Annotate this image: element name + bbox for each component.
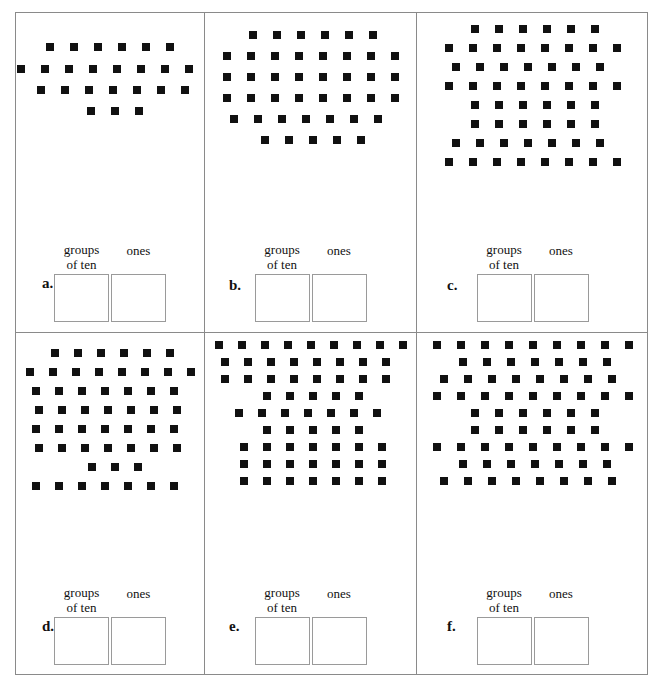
column-headers: groupsof tenones [417, 575, 648, 615]
dot-row [16, 65, 204, 73]
answer-boxes [205, 274, 416, 322]
dot-square [481, 443, 489, 451]
dot-square [378, 443, 386, 451]
tens-answer-box[interactable] [54, 274, 109, 322]
ones-label: ones [311, 586, 368, 615]
column-headers: groupsof tenones [417, 232, 648, 272]
dot-square [141, 368, 149, 376]
dot-square [567, 426, 575, 434]
dot-square [572, 63, 580, 71]
dot-square [281, 409, 289, 417]
dot-square [101, 425, 109, 433]
dot-square [512, 375, 520, 383]
dot-square [307, 341, 315, 349]
dot-square [565, 158, 573, 166]
dot-square [433, 443, 441, 451]
tens-answer-box[interactable] [54, 617, 109, 665]
tens-answer-box[interactable] [255, 617, 310, 665]
dot-square [247, 52, 255, 60]
dot-square [32, 425, 40, 433]
dot-square [471, 426, 479, 434]
dot-square [238, 341, 246, 349]
dot-square [464, 477, 472, 485]
dot-square [101, 387, 109, 395]
dot-square [173, 406, 181, 414]
dot-square [147, 425, 155, 433]
page-top-cropped-text [0, 0, 663, 10]
dot-row [417, 375, 648, 383]
dot-array [16, 333, 204, 501]
dot-square [170, 425, 178, 433]
dot-square [147, 387, 155, 395]
dot-square [55, 387, 63, 395]
dot-square [579, 460, 587, 468]
dot-square [85, 86, 93, 94]
dot-square [309, 443, 317, 451]
ones-label: ones [533, 586, 590, 615]
dot-square [382, 375, 390, 383]
ones-answer-box[interactable] [312, 274, 367, 322]
panel-d: d.groupsof tenones [16, 333, 205, 675]
dot-square [134, 463, 142, 471]
dot-square [560, 477, 568, 485]
ones-answer-box[interactable] [111, 617, 166, 665]
dot-square [517, 158, 525, 166]
dot-square [240, 460, 248, 468]
dot-square [271, 94, 279, 102]
dot-square [309, 392, 317, 400]
dot-row [417, 139, 648, 147]
answer-block: groupsof tenones [205, 575, 416, 675]
dot-square [541, 44, 549, 52]
dot-square [543, 25, 551, 33]
dot-row [16, 444, 204, 452]
dot-square [481, 392, 489, 400]
dot-square [104, 444, 112, 452]
groups-of-ten-label: groupsof ten [53, 585, 110, 615]
ones-answer-box[interactable] [534, 274, 589, 322]
dot-square [46, 43, 54, 51]
dot-square [332, 477, 340, 485]
ones-answer-box[interactable] [312, 617, 367, 665]
worksheet-grid: a.groupsof tenonesb.groupsof tenonesc.gr… [15, 12, 648, 675]
dot-square [613, 82, 621, 90]
dot-square [399, 341, 407, 349]
dot-square [313, 358, 321, 366]
dot-row [210, 477, 416, 485]
dot-square [524, 139, 532, 147]
dot-row [417, 44, 648, 52]
dot-row [417, 158, 648, 166]
dot-square [469, 44, 477, 52]
groups-of-ten-label-line2: of ten [254, 600, 311, 615]
dot-square [577, 443, 585, 451]
dot-square [150, 406, 158, 414]
dot-square [286, 426, 294, 434]
tens-answer-box[interactable] [477, 274, 532, 322]
ones-answer-box[interactable] [111, 274, 166, 322]
dot-row [422, 358, 648, 366]
dot-square [536, 375, 544, 383]
dot-square [519, 409, 527, 417]
tens-answer-box[interactable] [255, 274, 310, 322]
dot-square [254, 115, 262, 123]
dot-square [553, 341, 561, 349]
dot-square [81, 406, 89, 414]
groups-of-ten-label-line1: groups [254, 585, 311, 600]
dot-square [223, 52, 231, 60]
panel-c: c.groupsof tenones [417, 13, 648, 333]
ones-label: ones [110, 586, 167, 615]
groups-of-ten-label-line2: of ten [53, 600, 110, 615]
ones-answer-box[interactable] [534, 617, 589, 665]
dot-square [187, 368, 195, 376]
dot-square [373, 409, 381, 417]
dot-row [205, 115, 416, 123]
panel-a: a.groupsof tenones [16, 13, 205, 333]
groups-of-ten-label-line1: groups [53, 585, 110, 600]
dot-square [565, 44, 573, 52]
answer-block: groupsof tenones [205, 232, 416, 332]
dot-square [625, 392, 633, 400]
dot-row [205, 409, 416, 417]
groups-of-ten-label-line1: groups [53, 242, 110, 257]
dot-square [608, 477, 616, 485]
tens-answer-box[interactable] [477, 617, 532, 665]
dot-square [507, 358, 515, 366]
